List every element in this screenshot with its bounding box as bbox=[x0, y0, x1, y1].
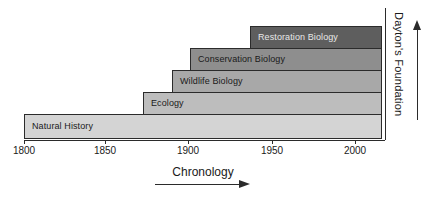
plot-area: Natural History Ecology Wildlife Biology… bbox=[0, 0, 428, 198]
x-tick-label-2000: 2000 bbox=[344, 146, 366, 156]
bar-wildlife-biology: Wildlife Biology bbox=[172, 70, 382, 93]
y-axis-line bbox=[385, 8, 386, 140]
x-axis-direction-arrow-icon bbox=[155, 180, 251, 189]
bar-label-restoration-biology: Restoration Biology bbox=[251, 33, 338, 42]
x-tick-1850 bbox=[105, 140, 106, 144]
x-tick-label-1800: 1800 bbox=[13, 146, 35, 156]
x-tick-label-1950: 1950 bbox=[261, 146, 283, 156]
y-axis-title: Dayton's Foundation bbox=[393, 12, 404, 116]
bar-natural-history: Natural History bbox=[24, 114, 382, 139]
bar-label-ecology: Ecology bbox=[144, 99, 184, 108]
x-tick-label-1850: 1850 bbox=[94, 146, 116, 156]
bar-label-wildlife-biology: Wildlife Biology bbox=[173, 77, 243, 86]
x-axis-line bbox=[24, 140, 385, 141]
bar-conservation-biology: Conservation Biology bbox=[190, 48, 382, 71]
bar-label-conservation-biology: Conservation Biology bbox=[191, 55, 285, 64]
x-tick-2000 bbox=[355, 140, 356, 144]
x-tick-1950 bbox=[272, 140, 273, 144]
chronology-chart-figure: Natural History Ecology Wildlife Biology… bbox=[0, 0, 428, 198]
bar-restoration-biology: Restoration Biology bbox=[250, 26, 382, 49]
x-tick-label-1900: 1900 bbox=[177, 146, 199, 156]
y-axis-direction-arrow-icon bbox=[413, 20, 422, 120]
bar-ecology: Ecology bbox=[143, 92, 382, 115]
x-axis-title: Chronology bbox=[172, 166, 233, 178]
x-tick-1800 bbox=[24, 140, 25, 144]
bar-label-natural-history: Natural History bbox=[25, 122, 93, 131]
x-tick-1900 bbox=[188, 140, 189, 144]
